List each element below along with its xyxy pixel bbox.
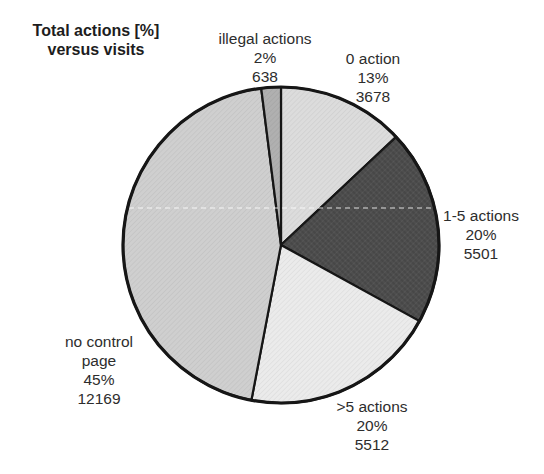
slice-label-name: 1-5 actions (419, 206, 543, 225)
slice-label-name: page (37, 351, 161, 370)
slice-label-percent: 13% (311, 68, 435, 87)
slice-label-0-action: 0 action 13% 3678 (311, 49, 435, 106)
chart-title-line: versus visits (18, 40, 174, 59)
slice-label-name: >5 actions (310, 397, 434, 416)
chart-title-line: Total actions [%] (18, 21, 174, 40)
pie-chart-figure: Total actions [%] versus visits illegal … (0, 0, 544, 474)
slice-label-percent: 20% (310, 416, 434, 435)
slice-label-no-control-page: no control page 45% 12169 (37, 332, 161, 408)
slice-label-name: no control (37, 332, 161, 351)
chart-title: Total actions [%] versus visits (18, 21, 174, 59)
slice-label-percent: 2% (203, 48, 327, 67)
slice-label-count: 638 (203, 67, 327, 86)
slice-label-more-than-5-actions: >5 actions 20% 5512 (310, 397, 434, 454)
slice-label-name: 0 action (311, 49, 435, 68)
slice-label-percent: 20% (419, 225, 543, 244)
slice-label-1-5-actions: 1-5 actions 20% 5501 (419, 206, 543, 263)
slice-label-count: 5501 (419, 244, 543, 263)
slice-label-name: illegal actions (203, 29, 327, 48)
slice-label-count: 3678 (311, 87, 435, 106)
slice-label-illegal-actions: illegal actions 2% 638 (203, 29, 327, 86)
slice-label-count: 5512 (310, 435, 434, 454)
slice-label-percent: 45% (37, 370, 161, 389)
slice-label-count: 12169 (37, 389, 161, 408)
